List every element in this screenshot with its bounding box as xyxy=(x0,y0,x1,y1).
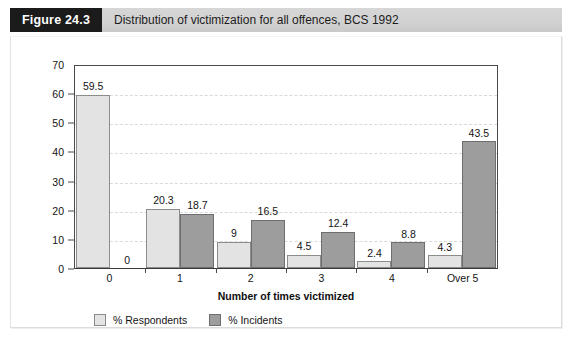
bar-incidents[interactable] xyxy=(462,141,496,268)
bar-slot: 12.4 xyxy=(321,66,355,268)
bar-slot: 59.5 xyxy=(76,66,110,268)
bar-value-label: 2.4 xyxy=(367,248,382,259)
bar-respondents[interactable] xyxy=(217,242,251,268)
legend-item[interactable]: % Respondents xyxy=(94,314,187,326)
y-axis: 010203040506070 xyxy=(11,65,74,269)
bar-respondents[interactable] xyxy=(287,255,321,268)
x-axis-tick-label: 3 xyxy=(286,273,357,289)
bar-slot: 4.5 xyxy=(287,66,321,268)
bar-value-label: 8.8 xyxy=(401,229,416,240)
bar-value-label: 9 xyxy=(231,228,237,239)
y-axis-tick-label: 70 xyxy=(52,60,64,71)
y-axis-tick-label: 50 xyxy=(52,118,64,129)
y-axis-tick-label: 10 xyxy=(52,235,64,246)
bar-respondents[interactable] xyxy=(357,261,391,268)
bar-incidents[interactable] xyxy=(180,214,214,268)
bar-respondents[interactable] xyxy=(428,255,462,268)
bar-slot: 8.8 xyxy=(391,66,425,268)
figure-body: 010203040506070 59.5020.318.7916.54.512.… xyxy=(10,36,562,328)
y-axis-tick-label: 0 xyxy=(58,264,64,275)
figure-number-badge: Figure 24.3 xyxy=(10,8,102,32)
x-axis-tick-label: 4 xyxy=(357,273,428,289)
bar-value-label: 0 xyxy=(124,255,130,266)
bar-slot: 16.5 xyxy=(251,66,285,268)
bar-value-label: 4.3 xyxy=(437,242,452,253)
bar-slot: 2.4 xyxy=(357,66,391,268)
bar-value-label: 12.4 xyxy=(328,218,348,229)
y-axis-tick-label: 40 xyxy=(52,147,64,158)
bar-slot: 43.5 xyxy=(462,66,496,268)
bar-slot: 20.3 xyxy=(146,66,180,268)
bar-group: 20.318.7 xyxy=(145,66,215,268)
x-axis-tick-label: 2 xyxy=(215,273,286,289)
bar-slot: 4.3 xyxy=(428,66,462,268)
figure-number-label: Figure 24.3 xyxy=(22,14,90,27)
figure-title-bar: Distribution of victimization for all of… xyxy=(102,8,562,32)
x-axis-tick-label: 0 xyxy=(74,273,145,289)
y-axis-tick-label: 20 xyxy=(52,205,64,216)
figure-container: Figure 24.3 Distribution of victimizatio… xyxy=(0,0,580,338)
bar-group: 4.512.4 xyxy=(286,66,356,268)
bar-respondents[interactable] xyxy=(76,95,110,268)
x-axis-tick-label: 1 xyxy=(145,273,216,289)
plot-area: 59.5020.318.7916.54.512.42.48.84.343.5 xyxy=(74,65,498,269)
bar-group: 2.48.8 xyxy=(356,66,426,268)
bar-incidents[interactable] xyxy=(321,232,355,268)
figure-header: Figure 24.3 Distribution of victimizatio… xyxy=(10,8,562,32)
legend-swatch-incidents xyxy=(209,314,221,326)
bar-slot: 0 xyxy=(110,66,144,268)
legend-item[interactable]: % Incidents xyxy=(209,314,282,326)
x-axis-labels: 01234Over 5 xyxy=(74,273,498,289)
figure-title: Distribution of victimization for all of… xyxy=(102,14,399,26)
bar-value-label: 59.5 xyxy=(83,81,103,92)
bar-value-label: 20.3 xyxy=(153,195,173,206)
chart-legend: % Respondents% Incidents xyxy=(74,314,498,326)
bar-group: 59.50 xyxy=(75,66,145,268)
x-axis-title: Number of times victimized xyxy=(74,291,498,302)
bar-incidents[interactable] xyxy=(251,220,285,268)
bar-respondents[interactable] xyxy=(146,209,180,268)
bar-incidents[interactable] xyxy=(391,242,425,268)
bar-value-label: 43.5 xyxy=(469,128,489,139)
bar-group: 4.343.5 xyxy=(427,66,497,268)
bar-value-label: 18.7 xyxy=(187,200,207,211)
bar-groups: 59.5020.318.7916.54.512.42.48.84.343.5 xyxy=(75,66,497,268)
bar-group: 916.5 xyxy=(216,66,286,268)
bar-slot: 18.7 xyxy=(180,66,214,268)
y-axis-tick-label: 30 xyxy=(52,176,64,187)
x-axis-tick-label: Over 5 xyxy=(427,273,498,289)
y-axis-tick-label: 60 xyxy=(52,89,64,100)
legend-label: % Respondents xyxy=(113,315,187,326)
bar-slot: 9 xyxy=(217,66,251,268)
legend-swatch-respondents xyxy=(94,314,106,326)
bar-value-label: 4.5 xyxy=(297,241,312,252)
bar-value-label: 16.5 xyxy=(258,206,278,217)
legend-label: % Incidents xyxy=(228,315,282,326)
